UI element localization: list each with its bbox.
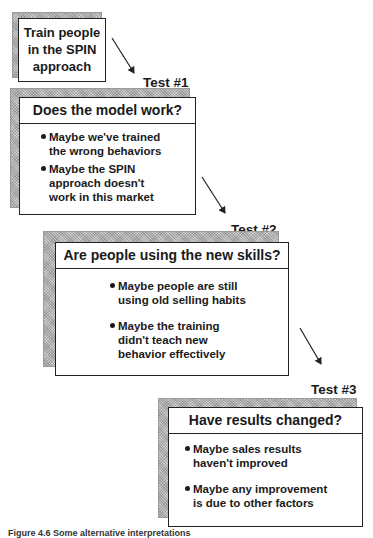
test-3-box: Have results changed? Maybe sales result… bbox=[168, 407, 363, 527]
start-box-line: Train people bbox=[19, 24, 105, 41]
test-1-bullet: Maybe we've trained the wrong behaviors bbox=[49, 130, 195, 158]
test-3-bullet-list: Maybe sales results haven't improved May… bbox=[169, 434, 362, 510]
bullet-dot-icon bbox=[110, 323, 115, 328]
test-3-question: Have results changed? bbox=[169, 408, 362, 434]
start-box-line: in the SPIN bbox=[19, 41, 105, 58]
figure-caption: Figure 4.6 Some alternative interpretati… bbox=[8, 528, 191, 538]
bullet-dot-icon bbox=[110, 283, 115, 288]
bullet-dot-icon bbox=[41, 134, 46, 139]
test-2-bullet: Maybe the training didn't teach new beha… bbox=[118, 319, 288, 361]
test-3-bullet: Maybe any improvement is due to other fa… bbox=[193, 482, 362, 510]
start-box-line: approach bbox=[19, 58, 105, 75]
test-1-box: Does the model work? Maybe we've trained… bbox=[19, 97, 196, 215]
test-1-bullet-list: Maybe we've trained the wrong behaviors … bbox=[20, 124, 195, 204]
arrow-start-to-test1 bbox=[112, 38, 134, 73]
bullet-dot-icon bbox=[41, 166, 46, 171]
test-3-label: Test #3 bbox=[311, 382, 357, 397]
test-2-question: Are people using the new skills? bbox=[56, 243, 288, 269]
test-1-bullet: Maybe the SPIN approach doesn't work in … bbox=[49, 162, 195, 204]
arrow-test2-to-test3 bbox=[300, 328, 321, 364]
start-box: Train people in the SPIN approach bbox=[18, 18, 106, 82]
bullet-dot-icon bbox=[185, 446, 190, 451]
bullet-dot-icon bbox=[185, 486, 190, 491]
test-1-question: Does the model work? bbox=[20, 98, 195, 124]
arrow-test1-to-test2 bbox=[202, 177, 225, 213]
test-2-bullet: Maybe people are still using old selling… bbox=[118, 279, 288, 307]
test-2-bullet-list: Maybe people are still using old selling… bbox=[56, 269, 288, 361]
test-3-bullet: Maybe sales results haven't improved bbox=[193, 442, 362, 470]
test-2-box: Are people using the new skills? Maybe p… bbox=[55, 242, 289, 376]
